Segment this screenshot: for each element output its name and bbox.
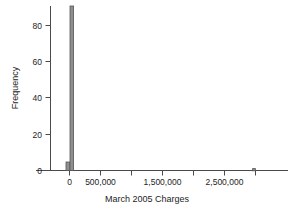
x-axis-title: March 2005 Charges [105, 194, 190, 204]
x-tick-label-0: 0 [67, 177, 72, 187]
histogram-bar [70, 6, 74, 171]
y-tick-label-0: 0 [37, 166, 42, 176]
y-tick-label-20: 20 [33, 130, 43, 140]
chart-canvas: 0 20 40 60 80 0 500,000 1,500,000 2,500,… [0, 0, 293, 217]
x-tick-label-2500000: 2,500,000 [206, 177, 244, 187]
x-tick-label-500000: 500,000 [85, 177, 116, 187]
x-tick-label-1500000: 1,500,000 [144, 177, 182, 187]
histogram-bar [66, 162, 70, 171]
y-axis-title: Frequency [10, 66, 20, 109]
y-tick-label-80: 80 [33, 21, 43, 31]
y-tick-label-60: 60 [33, 57, 43, 67]
histogram-bar [253, 169, 256, 171]
x-axis-tick-labels: 0 500,000 1,500,000 2,500,000 [67, 177, 244, 187]
y-tick-label-40: 40 [33, 93, 43, 103]
histogram-figure: 0 20 40 60 80 0 500,000 1,500,000 2,500,… [0, 0, 293, 217]
